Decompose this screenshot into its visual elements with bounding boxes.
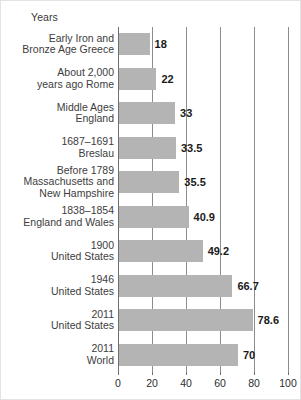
category-label-line: 2011	[87, 343, 114, 355]
bar	[119, 206, 189, 228]
category-label-line: United States	[51, 320, 114, 332]
tick-mark-80	[254, 372, 255, 375]
bar	[119, 68, 156, 90]
category-label: 1946United States	[51, 274, 114, 297]
bar	[119, 137, 176, 159]
bar-value-label: 70	[243, 349, 255, 361]
tick-mark-40	[186, 372, 187, 375]
tick-label-40: 40	[180, 377, 192, 389]
bar	[119, 309, 253, 331]
x-axis: 020406080100	[118, 372, 288, 396]
bar-row: 78.6	[118, 309, 288, 331]
bar-row: 70	[118, 344, 288, 366]
bar-row: 66.7	[118, 275, 288, 297]
tick-mark-60	[220, 372, 221, 375]
bar-row: 33.5	[118, 137, 288, 159]
category-label-line: 1946	[51, 274, 114, 286]
bar-row: 22	[118, 68, 288, 90]
tick-label-0: 0	[115, 377, 121, 389]
bar	[119, 171, 179, 193]
bar-value-label: 66.7	[237, 280, 258, 292]
tick-label-80: 80	[248, 377, 260, 389]
bar-value-label: 49.2	[208, 245, 229, 257]
category-label: About 2,000years ago Rome	[37, 67, 114, 90]
bar	[119, 102, 175, 124]
bar	[119, 275, 232, 297]
category-label: Middle AgesEngland	[57, 102, 114, 125]
plot-area: 18223333.535.540.949.266.778.670	[118, 27, 288, 372]
gridline-100	[288, 27, 289, 372]
category-label-line: England and Wales	[23, 217, 114, 229]
bar-value-label: 22	[161, 73, 173, 85]
category-label-line: 1687–1691	[61, 136, 114, 148]
category-label: 2011World	[87, 343, 114, 366]
axis-title: Years	[31, 11, 58, 23]
category-label-line: United States	[51, 286, 114, 298]
category-label-line: About 2,000	[37, 67, 114, 79]
bar-row: 40.9	[118, 206, 288, 228]
category-label-line: World	[87, 355, 114, 367]
category-label: 2011United States	[51, 309, 114, 332]
bar-value-label: 33	[180, 107, 192, 119]
bar-value-label: 35.5	[184, 176, 205, 188]
category-label: Before 1789Massachusetts andNew Hampshir…	[24, 165, 114, 200]
category-label: Early Iron andBronze Age Greece	[22, 33, 114, 56]
category-label-line: Breslau	[61, 148, 114, 160]
category-label: 1900United States	[51, 240, 114, 263]
tick-mark-100	[288, 372, 289, 375]
category-label: 1838–1854England and Wales	[23, 205, 114, 228]
category-label-line: New Hampshire	[24, 188, 114, 200]
bar-value-label: 33.5	[181, 142, 202, 154]
bar-row: 33	[118, 102, 288, 124]
tick-label-100: 100	[279, 377, 297, 389]
category-label-line: 1838–1854	[23, 205, 114, 217]
category-label-line: Bronze Age Greece	[22, 44, 114, 56]
bar	[119, 33, 150, 55]
category-label-line: United States	[51, 251, 114, 263]
tick-mark-0	[118, 372, 119, 375]
bar-row: 35.5	[118, 171, 288, 193]
category-label-line: England	[57, 113, 114, 125]
bar	[119, 240, 203, 262]
tick-mark-20	[152, 372, 153, 375]
bar	[119, 344, 238, 366]
bar-row: 49.2	[118, 240, 288, 262]
category-label-line: years ago Rome	[37, 79, 114, 91]
tick-label-20: 20	[146, 377, 158, 389]
bar-value-label: 78.6	[258, 314, 279, 326]
bar-row: 18	[118, 33, 288, 55]
tick-label-60: 60	[214, 377, 226, 389]
category-label: 1687–1691Breslau	[61, 136, 114, 159]
life-expectancy-bar-chart: Years 18223333.535.540.949.266.778.670 0…	[0, 0, 301, 400]
bar-value-label: 40.9	[194, 211, 215, 223]
bar-value-label: 18	[155, 38, 167, 50]
